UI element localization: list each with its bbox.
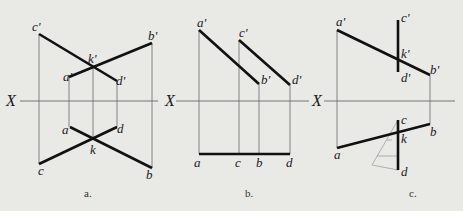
label-d-prime-c: d' [401,70,411,85]
label-d-a: d [117,121,124,136]
line-ab-c [337,124,430,148]
projection-figure: X c' b' k' a' d' a d k c b a. X a' [0,0,463,211]
label-c-prime-b: c' [239,25,248,40]
label-a-c: a [334,147,341,162]
label-d-b: d [286,155,293,170]
label-a-prime-c: a' [336,14,346,29]
label-b-prime-b: b' [261,72,271,87]
figure-svg: X c' b' k' a' d' a d k c b a. X a' [0,0,463,211]
caption-c: c. [409,187,417,199]
label-c-b: c [235,155,241,170]
label-a-b: a [194,155,201,170]
panel-a: X c' b' k' a' d' a d k c b a. [5,19,158,199]
line-a'b'-b [199,30,259,84]
label-k-a: k [90,142,96,157]
construction-line-1 [372,120,398,165]
label-c-prime-a: c' [32,19,41,34]
label-d-c: d [401,164,408,179]
label-b-c: b [430,124,437,139]
line-a'b'-c [337,30,430,75]
label-k-prime-a: k' [88,51,97,66]
label-b-b: b [256,155,263,170]
caption-b: b. [245,187,254,199]
label-b-a: b [146,167,153,182]
label-c-prime-c: c' [401,10,410,25]
label-a-prime-b: a' [197,15,207,30]
label-b-prime-a: b' [148,28,158,43]
axis-label-x-c: X [311,92,323,109]
axis-label-x-b: X [164,92,176,109]
panel-c: X a' c' k' d' b' c b k a d c. [311,10,455,199]
axis-label-x-a: X [5,92,17,109]
label-k-prime-c: k' [401,46,410,61]
construction-line-3 [372,165,398,170]
line-ab-a [70,127,152,168]
caption-a: a. [84,187,92,199]
label-d-prime-a: d' [116,73,126,88]
label-k-c: k [401,131,407,146]
label-c-c: c [401,112,407,127]
label-a-prime-a: a' [63,69,73,84]
label-d-prime-b: d' [292,72,302,87]
panel-b: X a' c' b' d' a c b d b. [164,15,309,199]
label-c-a: c [38,163,44,178]
label-a-a: a [62,122,69,137]
label-b-prime-c: b' [430,62,440,77]
